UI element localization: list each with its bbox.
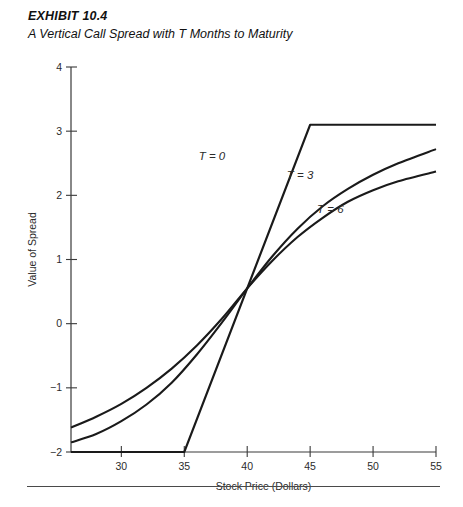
x-tick-label: 30: [116, 460, 128, 472]
x-tick-label: 55: [430, 460, 442, 472]
series-label: T = 6: [317, 203, 344, 215]
chart-axis-titles: Stock Price (Dollars)Value of Spread: [26, 212, 311, 492]
series-label: T = 0: [199, 150, 226, 162]
y-tick-label: 0: [56, 317, 62, 329]
y-tick-label: 1: [56, 253, 62, 265]
x-tick-label: 50: [367, 460, 379, 472]
series-curve: [71, 172, 436, 428]
series-curve: [71, 125, 436, 452]
series-curve: [71, 149, 436, 442]
y-tick-label: 2: [56, 189, 62, 201]
chart-figure: −2−101234303540455055 T = 0T = 3T = 6 St…: [0, 0, 463, 500]
y-tick-label: −2: [50, 446, 62, 458]
chart-annotations: T = 0T = 3T = 6: [199, 150, 344, 215]
x-tick-label: 40: [241, 460, 253, 472]
y-axis-title: Value of Spread: [26, 212, 38, 287]
chart-canvas: −2−101234303540455055 T = 0T = 3T = 6 St…: [0, 0, 463, 500]
x-tick-label: 35: [178, 460, 190, 472]
y-tick-label: 4: [56, 61, 62, 73]
footer-divider: [27, 486, 440, 487]
x-tick-label: 45: [304, 460, 316, 472]
series-label: T = 3: [287, 169, 314, 181]
chart-series: [71, 125, 436, 452]
y-tick-label: −1: [50, 381, 62, 393]
y-tick-label: 3: [56, 125, 62, 137]
